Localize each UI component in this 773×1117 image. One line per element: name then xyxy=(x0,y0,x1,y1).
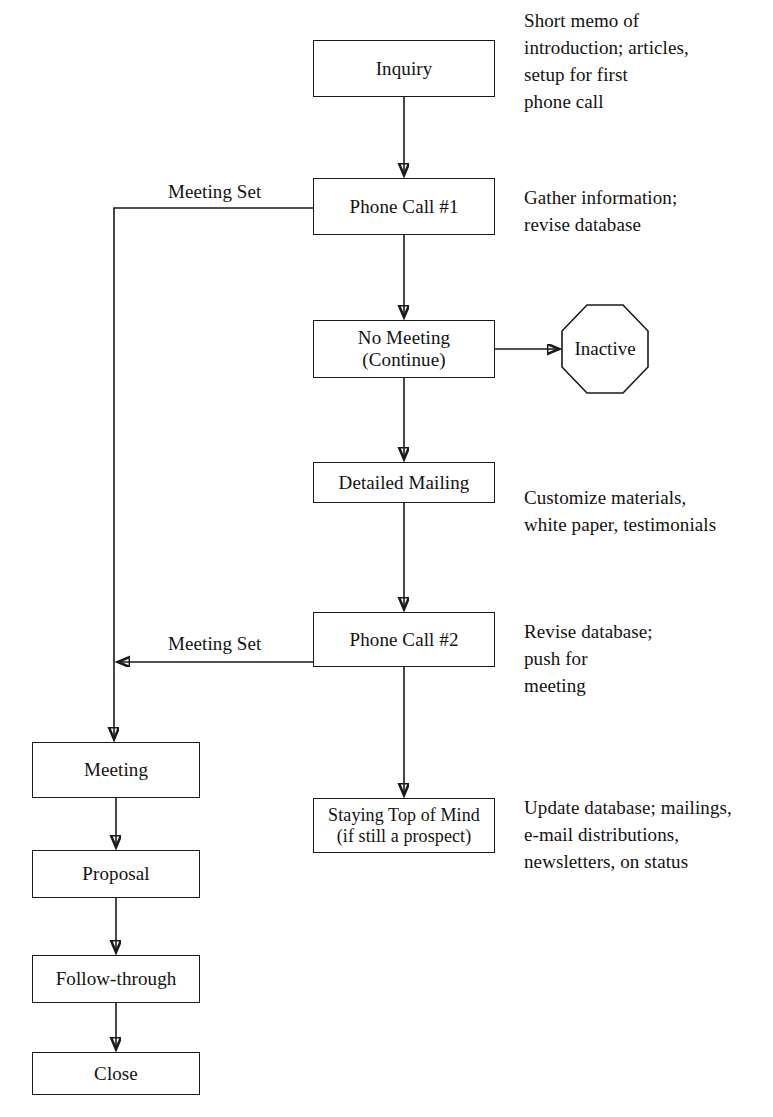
node-meeting-label: Meeting xyxy=(84,759,148,781)
node-close-label: Close xyxy=(94,1063,138,1085)
node-proposal-label: Proposal xyxy=(82,863,149,885)
connector-layer xyxy=(0,0,773,1117)
annotation-inquiry: Short memo of introduction; articles, se… xyxy=(524,8,764,116)
node-inactive-label: Inactive xyxy=(574,338,635,360)
annotation-detailed-mailing: Customize materials, white paper, testim… xyxy=(524,485,770,539)
edge-label-meeting-set-1: Meeting Set xyxy=(168,181,261,203)
node-detailed-mailing-label: Detailed Mailing xyxy=(339,472,470,494)
node-phone-call-1[interactable]: Phone Call #1 xyxy=(313,178,495,235)
node-inactive[interactable]: Inactive xyxy=(561,304,649,394)
annotation-phone-call-1: Gather information; revise database xyxy=(524,185,764,239)
node-phone-call-2[interactable]: Phone Call #2 xyxy=(313,612,495,667)
flowchart-canvas: Inquiry Phone Call #1 No Meeting (Contin… xyxy=(0,0,773,1117)
node-staying-top-of-mind-label-line1: Staying Top of Mind xyxy=(328,805,480,826)
node-phone-call-2-label: Phone Call #2 xyxy=(350,629,459,651)
node-no-meeting-label-line2: (Continue) xyxy=(358,349,450,371)
node-proposal[interactable]: Proposal xyxy=(32,850,200,898)
node-no-meeting[interactable]: No Meeting (Continue) xyxy=(313,320,495,378)
node-staying-top-of-mind[interactable]: Staying Top of Mind (if still a prospect… xyxy=(313,798,495,853)
node-staying-top-of-mind-label-line2: (if still a prospect) xyxy=(328,826,480,847)
annotation-phone-call-2: Revise database; push for meeting xyxy=(524,619,764,700)
annotation-staying-top-of-mind: Update database; mailings, e-mail distri… xyxy=(524,795,773,876)
node-close[interactable]: Close xyxy=(32,1052,200,1095)
node-follow-through[interactable]: Follow-through xyxy=(32,955,200,1003)
node-meeting[interactable]: Meeting xyxy=(32,742,200,798)
node-no-meeting-label-line1: No Meeting xyxy=(358,327,450,349)
edge-label-meeting-set-2: Meeting Set xyxy=(168,633,261,655)
node-inquiry-label: Inquiry xyxy=(376,58,433,80)
node-detailed-mailing[interactable]: Detailed Mailing xyxy=(313,462,495,503)
node-inquiry[interactable]: Inquiry xyxy=(313,40,495,97)
node-phone-call-1-label: Phone Call #1 xyxy=(350,196,459,218)
node-follow-through-label: Follow-through xyxy=(56,968,177,990)
edge-meeting-set-from-phone-call-1 xyxy=(114,208,313,739)
